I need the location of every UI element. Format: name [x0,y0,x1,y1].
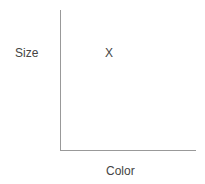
y-axis-label: Size [15,46,38,60]
y-axis-line [60,10,61,150]
x-axis-label: Color [106,164,135,178]
x-axis-line [60,150,196,151]
plot-marker: X [105,46,113,60]
